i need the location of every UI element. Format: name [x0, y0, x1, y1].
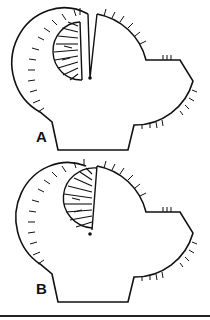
panel-label-b: B [36, 280, 47, 297]
inner-fan-hairs [54, 22, 78, 80]
diagram-canvas [0, 0, 210, 320]
panel-label-a: A [36, 128, 47, 145]
bottom-divider [0, 315, 210, 317]
outer-hairs [28, 8, 197, 129]
inner-fan-hairs [64, 168, 92, 227]
outer-hairs [28, 159, 197, 281]
